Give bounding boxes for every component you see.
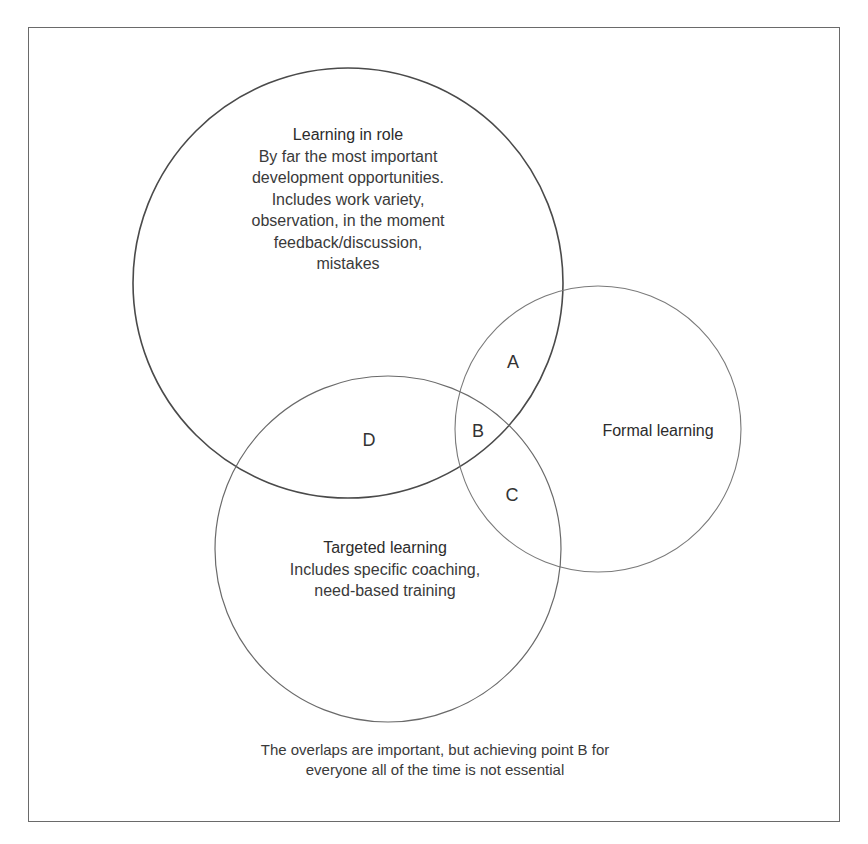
learning-in-role-desc-line: mistakes bbox=[198, 253, 498, 275]
learning-in-role-title: Learning in role bbox=[198, 124, 498, 146]
caption-line: The overlaps are important, but achievin… bbox=[200, 740, 670, 760]
learning-in-role-label: Learning in role By far the most importa… bbox=[198, 124, 498, 275]
targeted-learning-desc-line: Includes specific coaching, bbox=[235, 559, 535, 581]
targeted-learning-desc-line: need-based training bbox=[235, 580, 535, 602]
learning-in-role-desc-line: observation, in the moment bbox=[198, 210, 498, 232]
formal-learning-label: Formal learning bbox=[558, 420, 758, 442]
learning-in-role-desc-line: feedback/discussion, bbox=[198, 232, 498, 254]
caption-line: everyone all of the time is not essentia… bbox=[200, 760, 670, 780]
targeted-learning-label: Targeted learning Includes specific coac… bbox=[235, 537, 535, 602]
formal-learning-title: Formal learning bbox=[558, 420, 758, 442]
learning-in-role-desc-line: By far the most important bbox=[198, 146, 498, 168]
region-d-label: D bbox=[363, 430, 376, 451]
region-a-label: A bbox=[507, 352, 519, 373]
diagram-caption: The overlaps are important, but achievin… bbox=[200, 740, 670, 780]
targeted-learning-title: Targeted learning bbox=[235, 537, 535, 559]
region-c-label: C bbox=[506, 485, 519, 506]
region-b-label: B bbox=[472, 421, 484, 442]
learning-in-role-desc-line: development opportunities. bbox=[198, 167, 498, 189]
learning-in-role-desc-line: Includes work variety, bbox=[198, 189, 498, 211]
